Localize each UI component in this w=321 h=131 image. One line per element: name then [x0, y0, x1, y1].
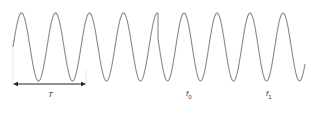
waveform-diagram — [0, 0, 321, 131]
arrow-head-right-icon — [81, 82, 86, 86]
arrow-head-left-icon — [13, 82, 18, 86]
frequency-label-f1: f1 — [266, 89, 272, 100]
sine-wave-path — [13, 13, 305, 81]
period-arrow — [13, 82, 86, 86]
f0-subscript: 0 — [188, 94, 191, 100]
frequency-label-f0: f0 — [186, 89, 192, 100]
f1-subscript: 1 — [268, 94, 271, 100]
period-label: T — [48, 90, 53, 99]
